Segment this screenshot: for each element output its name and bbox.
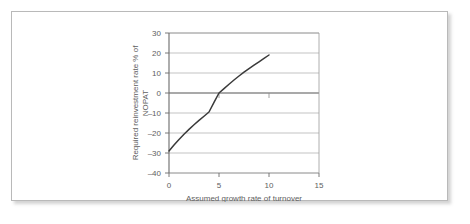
x-tick-label: 0 [167, 181, 172, 190]
y-tick-label: –20 [148, 129, 162, 138]
x-tick-label: 15 [315, 181, 324, 190]
x-axis-ticks [169, 173, 319, 177]
plot-background [169, 33, 319, 173]
x-axis-title: Assumed growth rate of turnover [186, 194, 302, 202]
y-axis-title-line1: Required reinvestment rate % of [131, 45, 140, 161]
y-tick-label: 10 [152, 69, 161, 78]
chart-area: 30 20 10 0 –10 –20 –30 –40 0 5 10 15 Ass… [12, 12, 449, 202]
y-tick-label: 20 [152, 49, 161, 58]
x-tick-label: 10 [265, 181, 274, 190]
y-tick-label: 30 [152, 29, 161, 38]
y-tick-label: 0 [157, 89, 162, 98]
y-axis-title: Required reinvestment rate % of NOPAT [131, 45, 150, 161]
figure-frame: 30 20 10 0 –10 –20 –30 –40 0 5 10 15 Ass… [11, 11, 448, 201]
y-axis-ticks [165, 33, 169, 173]
x-tick-labels: 0 5 10 15 [167, 181, 324, 190]
y-tick-label: –40 [148, 169, 162, 178]
line-chart: 30 20 10 0 –10 –20 –30 –40 0 5 10 15 Ass… [12, 12, 449, 202]
y-axis-title-line2: NOPAT [141, 90, 150, 116]
y-tick-label: –30 [148, 149, 162, 158]
x-tick-label: 5 [217, 181, 222, 190]
